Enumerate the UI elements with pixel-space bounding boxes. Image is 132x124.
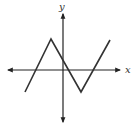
y-axis-label: y bbox=[58, 1, 65, 12]
function-graph: x y bbox=[0, 0, 132, 124]
function-curve bbox=[25, 39, 110, 92]
x-axis-label: x bbox=[125, 64, 131, 75]
